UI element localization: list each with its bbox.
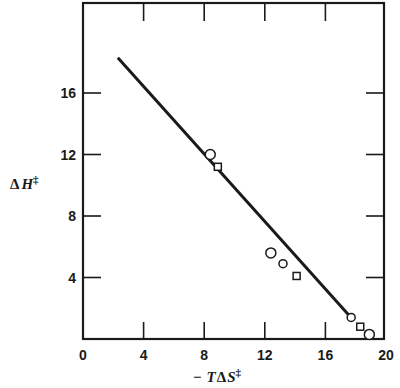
scatter-chart: 048121620 481216 ΔH‡ −TΔS‡ (0, 0, 400, 388)
plot-frame (83, 3, 384, 339)
fit-line-segment (118, 58, 350, 316)
y-axis-title: ΔH‡ (10, 173, 39, 192)
circle-marker (364, 329, 374, 339)
x-tick-label: 0 (79, 347, 87, 363)
y-tick-label: 12 (60, 147, 76, 163)
y-tick-label: 8 (68, 208, 76, 224)
x-tick-label: 4 (140, 347, 148, 363)
x-axis-title-minus: − (193, 369, 202, 385)
x-tick-label: 20 (378, 347, 394, 363)
x-tick-label: 8 (200, 347, 208, 363)
square-marker (214, 163, 221, 170)
x-tick-label: 16 (318, 347, 334, 363)
y-axis-ticks: 481216 (60, 85, 384, 286)
x-axis-title-sup: ‡ (235, 366, 241, 378)
x-tick-label: 12 (257, 347, 273, 363)
x-axis-title-delta: Δ (217, 369, 227, 385)
x-axis-title-T: T (207, 369, 217, 385)
y-axis-title-sup: ‡ (33, 173, 39, 185)
x-axis-title-S: S (227, 369, 235, 385)
x-axis-ticks: 048121620 (79, 3, 394, 363)
x-axis-title: −TΔS‡ (193, 366, 241, 385)
y-tick-label: 4 (68, 270, 76, 286)
y-axis-title-delta: Δ (10, 176, 20, 192)
circle-marker (279, 260, 287, 268)
y-tick-label: 16 (60, 85, 76, 101)
square-marker (357, 323, 364, 330)
regression-line (118, 58, 350, 316)
circle-marker (266, 248, 276, 258)
circle-marker (205, 150, 215, 160)
circle-marker (347, 313, 355, 321)
data-points (205, 150, 374, 340)
square-marker (293, 272, 300, 279)
